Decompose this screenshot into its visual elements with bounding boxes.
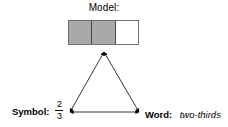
fraction-numerator: 2 <box>57 100 62 109</box>
connector-model-to-symbol <box>70 52 104 112</box>
word-group: Word: two-thirds <box>145 104 221 122</box>
word-label: Word: <box>145 109 172 120</box>
symbol-group: Symbol: 2 3 <box>12 101 63 121</box>
symbol-label: Symbol: <box>12 106 49 117</box>
connector-model-to-word <box>104 52 139 112</box>
diagram-canvas: Model: Symbol: 2 3 Word: two-thirds <box>0 0 228 127</box>
word-value: two-thirds <box>180 109 221 120</box>
fraction-two-thirds: 2 3 <box>55 100 63 121</box>
fraction-denominator: 3 <box>57 112 62 121</box>
